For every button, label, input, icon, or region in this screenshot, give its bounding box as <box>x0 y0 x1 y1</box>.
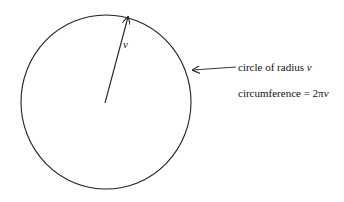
circle-label-var: v <box>307 61 312 73</box>
circumference-text: circumference = 2π <box>238 87 324 99</box>
radius-arrow <box>105 17 128 103</box>
circumference-var: v <box>324 87 329 99</box>
circle <box>21 15 191 189</box>
circle-label-text: circle of radius <box>238 61 307 73</box>
circle-diagram <box>0 0 344 202</box>
circle-of-radius-label: circle of radius v <box>238 61 312 73</box>
circumference-label: circumference = 2πv <box>238 87 329 99</box>
radius-label: v <box>123 38 128 50</box>
pointer-arrow <box>193 67 236 70</box>
